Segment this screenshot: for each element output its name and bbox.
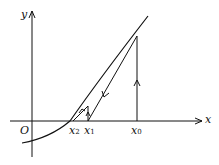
x-axis-label: x <box>205 114 211 125</box>
x1-label: x1 <box>84 125 95 136</box>
x2-label: x2 <box>69 125 80 136</box>
x0-label: x0 <box>131 125 142 136</box>
origin-label: O <box>20 125 29 136</box>
newton-method-diagram <box>0 0 219 165</box>
tangent-down-arrow-icon <box>102 91 109 97</box>
x2-subscript: 2 <box>75 128 79 136</box>
tangent-x0 <box>88 36 137 121</box>
x0-subscript: 0 <box>137 128 141 136</box>
y-axis-label: y <box>21 9 27 20</box>
x1-subscript: 1 <box>90 128 94 136</box>
